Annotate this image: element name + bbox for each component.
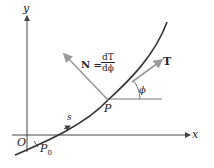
origin-label: O [17,137,26,148]
arc-length-label: s [67,113,72,122]
tangent-label: T [163,56,171,67]
fraction-numerator: dT [101,52,115,63]
diagram-canvas [0,0,214,168]
point-p-label: P [104,103,111,114]
fraction-denominator: dϕ [102,63,114,73]
y-axis-label: y [23,3,29,14]
p0-label: P0 [40,143,52,157]
angle-label: ϕ [139,85,146,95]
normal-label: N = [81,60,102,70]
x-axis-label: x [192,129,198,140]
normal-fraction: dT dϕ [101,52,115,73]
